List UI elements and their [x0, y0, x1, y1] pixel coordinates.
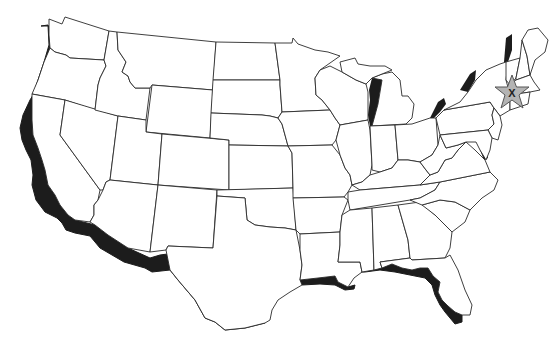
- state-new-mexico: [150, 185, 217, 252]
- lake-champlain: [504, 34, 512, 62]
- state-wyoming: [146, 85, 213, 138]
- state-colorado: [158, 134, 229, 190]
- states: [32, 17, 548, 330]
- state-south-dakota: [211, 80, 282, 118]
- marker-label: X: [508, 87, 516, 99]
- state-florida: [380, 255, 472, 315]
- us-outline-map: X: [0, 0, 559, 342]
- state-iowa: [278, 110, 340, 146]
- state-montana: [117, 32, 216, 90]
- state-mississippi: [338, 208, 374, 272]
- state-kansas: [229, 145, 293, 190]
- state-north-dakota: [213, 42, 280, 80]
- state-arkansas: [293, 197, 348, 234]
